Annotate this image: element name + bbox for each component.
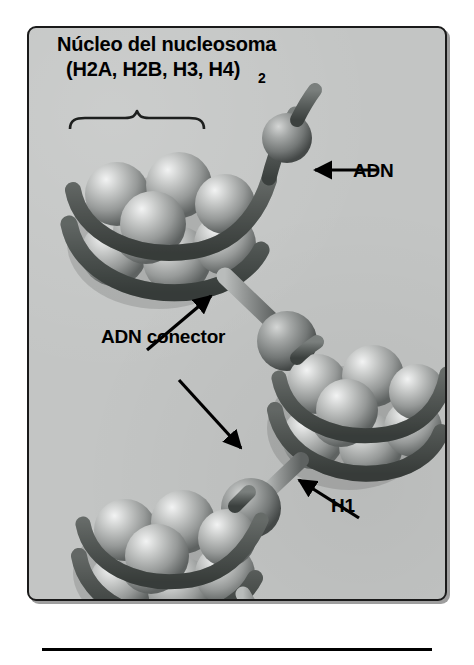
- label-dna: ADN: [353, 160, 394, 182]
- core-particle-brace: [70, 111, 204, 129]
- figure-root: Núcleo del nucleosoma (H2A, H2B, H3, H4)…: [0, 0, 474, 665]
- dna-strand-exit-top: [297, 90, 315, 120]
- page-title: Núcleo del nucleosoma: [57, 33, 276, 56]
- footer-divider: [42, 648, 432, 651]
- diagram-panel: [27, 26, 447, 601]
- histone-composition-label: (H2A, H2B, H3, H4): [66, 58, 240, 81]
- nucleosome-bottom: [73, 490, 265, 599]
- label-histone-h1: H1: [331, 495, 355, 517]
- histone-composition-subscript: 2: [258, 70, 266, 86]
- linker-arrow-lower: [179, 380, 241, 448]
- label-linker-dna: ADN conector: [101, 326, 225, 348]
- linker-dna-rod-upper: [225, 276, 275, 324]
- nucleosome-illustration: [29, 28, 445, 599]
